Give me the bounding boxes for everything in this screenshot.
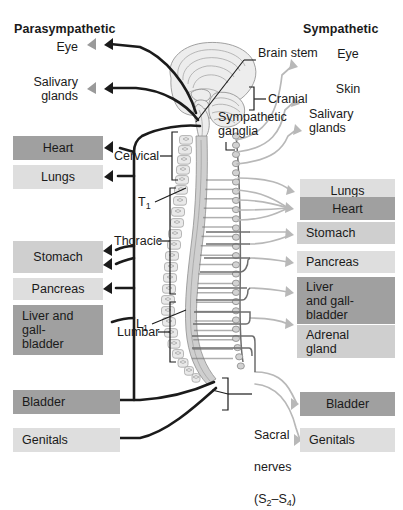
left-target-genitals[interactable]: Genitals — [13, 428, 120, 452]
right-target-genitals[interactable]: Genitals — [300, 428, 395, 452]
right-target-liver-gallbladder[interactable]: Liver and gall- bladder — [297, 277, 395, 324]
parasympathetic-heading: Parasympathetic — [14, 22, 116, 36]
sympathetic-ganglia-label: Sympathetic ganglia — [218, 110, 287, 138]
sacral-s2: 2 — [267, 498, 272, 508]
right-target-stomach[interactable]: Stomach — [297, 222, 395, 244]
sacral-line-3: (S2–S4) — [254, 491, 296, 508]
l1-letter: L — [136, 317, 143, 331]
t1-letter: T — [138, 195, 146, 209]
sympathetic-heading: Sympathetic — [303, 22, 378, 36]
sacral-s-open: (S — [254, 492, 267, 506]
left-target-liver-gallbladder[interactable]: Liver and gall- bladder — [13, 305, 103, 355]
sympathetic-chain — [232, 133, 244, 369]
right-target-skin[interactable]: Skin — [303, 79, 393, 99]
sacral-nerves-label: Sacral nerves (S2–S4) — [254, 411, 296, 510]
right-target-pancreas[interactable]: Pancreas — [297, 251, 395, 273]
sacral-line-2: nerves — [254, 459, 296, 475]
sacral-close: ) — [292, 492, 296, 506]
left-target-stomach[interactable]: Stomach — [13, 241, 103, 273]
right-target-heart[interactable]: Heart — [300, 197, 395, 220]
l1-subscript: 1 — [143, 323, 148, 333]
brain-stem-label: Brain stem — [258, 46, 318, 60]
left-target-eye[interactable]: Eye — [18, 37, 104, 57]
t1-subscript: 1 — [146, 201, 151, 211]
right-target-bladder[interactable]: Bladder — [300, 392, 395, 416]
t1-label: T1 — [138, 195, 151, 210]
l1-label: L1 — [136, 317, 148, 332]
thoracic-label: Thoracic — [114, 234, 162, 248]
right-target-salivary-glands[interactable]: Salivary glands — [300, 105, 395, 137]
left-target-salivary-glands[interactable]: Salivary glands — [18, 73, 104, 105]
spinal-cord — [185, 136, 216, 384]
sacral-line-1: Sacral — [254, 427, 296, 443]
cranial-label: Cranial — [268, 92, 308, 106]
left-target-heart[interactable]: Heart — [13, 136, 103, 160]
left-target-lungs[interactable]: Lungs — [13, 165, 103, 189]
left-target-pancreas[interactable]: Pancreas — [13, 278, 103, 300]
sacral-s4: 4 — [287, 498, 292, 508]
sacral-dash-s: –S — [272, 492, 287, 506]
left-target-bladder[interactable]: Bladder — [13, 390, 120, 414]
cervical-label: Cervical — [114, 149, 159, 163]
right-target-adrenal-gland[interactable]: Adrenal gland — [297, 325, 395, 358]
